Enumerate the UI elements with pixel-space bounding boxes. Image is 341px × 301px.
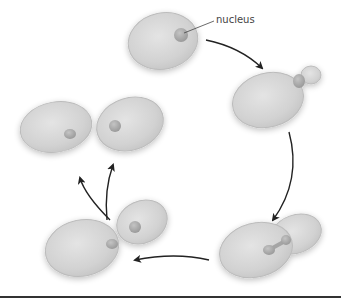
nucleus-icon bbox=[174, 28, 188, 42]
nucleus-icon bbox=[129, 221, 141, 233]
arrow-stage3-to-4 bbox=[135, 256, 209, 260]
nucleus-icon bbox=[281, 235, 291, 245]
nucleus-icon bbox=[106, 239, 118, 249]
arrow-stage2-to-3 bbox=[273, 132, 293, 220]
nucleus-label: nucleus bbox=[216, 14, 255, 25]
nucleus-icon bbox=[263, 245, 275, 255]
stage-bud-forming bbox=[226, 65, 321, 136]
arrow-stage4-to-daughter-left bbox=[80, 178, 110, 220]
nucleus-icon bbox=[293, 74, 305, 88]
nucleus-icon bbox=[109, 120, 121, 132]
stage-daughter-cells bbox=[16, 89, 170, 159]
arrow-stage1-to-2 bbox=[206, 40, 262, 68]
budding-diagram: nucleus bbox=[0, 0, 341, 301]
arrow-stage4-to-daughter-right bbox=[106, 165, 113, 220]
nucleus-icon bbox=[64, 129, 76, 139]
stage-nucleus-dividing bbox=[213, 207, 327, 285]
stage-bud-separating bbox=[40, 192, 174, 283]
stage-mother-cell bbox=[123, 6, 203, 75]
